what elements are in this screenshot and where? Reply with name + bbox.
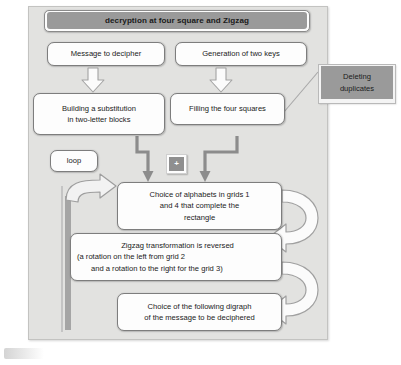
box-message-to-decipher: Message to decipher bbox=[47, 42, 165, 66]
box-zigzag-line1: Zigzag transformation is reversed bbox=[77, 240, 278, 252]
box-choice-of-alphabets: Choice of alphabets in grids 1 and 4 tha… bbox=[117, 182, 282, 230]
box-choice-line1: Choice of alphabets in grids 1 bbox=[149, 189, 249, 201]
box-zigzag-reversed: Zigzag transformation is reversed (a rot… bbox=[70, 233, 282, 281]
figure-canvas: decryption at four square and Zigzag Mes… bbox=[0, 0, 401, 365]
callout-line-2: duplicates bbox=[340, 83, 374, 95]
box-choice-line3: rectangle bbox=[184, 212, 215, 224]
callout-deleting-duplicates: Deleting duplicates bbox=[321, 66, 393, 99]
box-building-substitution: Building a substitution in two-letter bl… bbox=[33, 93, 165, 135]
box-keygen-label: Generation of two keys bbox=[202, 48, 280, 60]
box-zigzag-line2: (a rotation on the left from grid 2 bbox=[77, 251, 185, 263]
box-zigzag-line3: and a rotation to the right for the grid… bbox=[77, 263, 223, 275]
box-filling-four-squares: Filling the four squares bbox=[170, 93, 285, 125]
callout-line-1: Deleting bbox=[343, 71, 371, 83]
box-choice-line2: and 4 that complete the bbox=[160, 200, 239, 212]
figure-title: decryption at four square and Zigzag bbox=[47, 12, 307, 29]
box-substitution-line1: Building a substitution bbox=[62, 103, 136, 115]
box-filling-label: Filling the four squares bbox=[189, 103, 266, 115]
box-digraph-line2: of the message to be deciphered bbox=[144, 312, 255, 324]
box-generation-of-keys: Generation of two keys bbox=[175, 42, 307, 66]
box-choice-following-digraph: Choice of the following digraph of the m… bbox=[117, 293, 282, 331]
caption-remnant bbox=[4, 348, 44, 359]
loop-label: loop bbox=[67, 155, 81, 167]
box-digraph-line1: Choice of the following digraph bbox=[148, 301, 252, 313]
box-message-label: Message to decipher bbox=[71, 48, 142, 60]
box-loop-label: loop bbox=[50, 150, 98, 172]
box-substitution-line2: in two-letter blocks bbox=[68, 114, 131, 126]
plus-junction-symbol: + bbox=[169, 157, 184, 171]
